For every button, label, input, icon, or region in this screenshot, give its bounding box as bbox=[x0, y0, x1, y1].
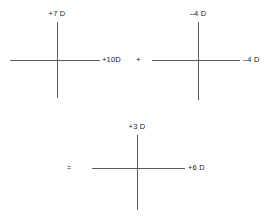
cross-2-horizontal-power-label: –4 D bbox=[243, 56, 260, 64]
optical-cross-diagram: +7 D +10D + –4 D –4 D = +3 D +6 D bbox=[0, 0, 274, 216]
cross-2-vertical-power-label: –4 D bbox=[190, 10, 207, 18]
plus-operator: + bbox=[136, 56, 141, 64]
cross-1-vertical-power-label: +7 D bbox=[49, 10, 66, 18]
cross-3-horizontal-power-label: +6 D bbox=[188, 164, 205, 172]
cross-1-horizontal-power-label: +10D bbox=[102, 56, 121, 64]
cross-3-vertical-power-label: +3 D bbox=[129, 123, 146, 131]
cross-3-horizontal-axis bbox=[92, 168, 185, 169]
cross-2-horizontal-axis bbox=[152, 60, 240, 61]
cross-3-vertical-axis bbox=[137, 135, 138, 210]
cross-2-vertical-axis bbox=[198, 22, 199, 100]
equals-operator: = bbox=[67, 164, 71, 171]
cross-1-horizontal-axis bbox=[10, 60, 100, 61]
